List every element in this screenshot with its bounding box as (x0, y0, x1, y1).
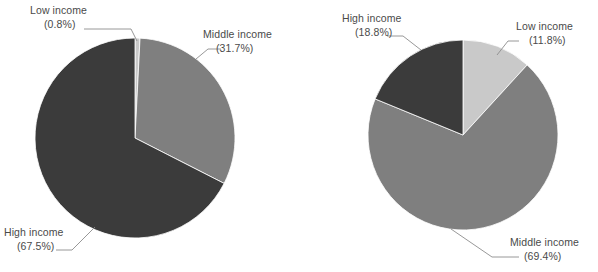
charts-svg-canvas: Low income (0.8%) Middle income (31.7%) … (0, 0, 598, 272)
left-pie-slices (35, 38, 235, 238)
left-label-high-income-value: (67.5%) (17, 240, 54, 252)
left-label-low-income-value: (0.8%) (44, 18, 76, 30)
left-callout-middle-income: Middle income (31.7%) (196, 28, 272, 59)
right-label-high-income-name: High income (342, 12, 402, 24)
right-label-middle-income-name: Middle income (510, 236, 579, 248)
right-pie-chart: High income (18.8%) Low income (11.8%) M… (342, 12, 579, 262)
left-callout-low-income: Low income (0.8%) (30, 4, 137, 41)
right-label-middle-income-value: (69.4%) (524, 250, 561, 262)
right-label-low-income-value: (11.8%) (529, 34, 566, 46)
right-leader-middle-income (451, 229, 519, 257)
right-callout-middle-income: Middle income (69.4%) (451, 229, 579, 262)
left-label-middle-income-name: Middle income (203, 28, 272, 40)
right-callout-low-income: Low income (11.8%) (497, 20, 573, 55)
left-callout-high-income: High income (67.5%) (4, 226, 95, 252)
right-label-high-income-value: (18.8%) (355, 26, 392, 38)
right-pie-slices (368, 40, 558, 230)
left-label-middle-income-value: (31.7%) (216, 42, 253, 54)
left-pie-chart: Low income (0.8%) Middle income (31.7%) … (4, 4, 272, 252)
right-leader-high-income (387, 36, 421, 50)
left-label-low-income-name: Low income (30, 4, 87, 16)
left-label-high-income-name: High income (4, 226, 64, 238)
pie-chart-figure: Low income (0.8%) Middle income (31.7%) … (0, 0, 598, 272)
right-callout-high-income: High income (18.8%) (342, 12, 421, 50)
right-label-low-income-name: Low income (516, 20, 573, 32)
